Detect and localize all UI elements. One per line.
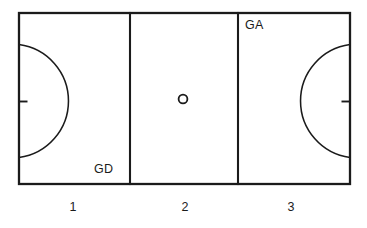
court-svg: [0, 0, 367, 228]
netball-court-diagram: GD GA 1 2 3: [0, 0, 367, 228]
third-number-3: 3: [276, 201, 306, 214]
third-number-2: 2: [170, 201, 200, 214]
position-label-ga: GA: [245, 19, 264, 32]
third-number-1: 1: [58, 201, 88, 214]
position-label-gd: GD: [94, 163, 114, 176]
